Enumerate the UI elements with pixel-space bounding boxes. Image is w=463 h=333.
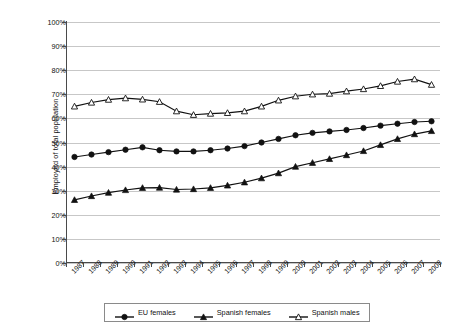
chart-legend: EU femalesSpanish femalesSpanish males	[104, 303, 370, 322]
series-eu-females	[72, 119, 434, 160]
data-point	[106, 149, 111, 154]
x-tick-mark	[304, 263, 305, 267]
x-tick-mark	[338, 263, 339, 267]
plot-area	[66, 22, 440, 263]
series-spanish-females	[71, 128, 434, 203]
x-tick-mark	[372, 263, 373, 267]
data-point	[327, 129, 332, 134]
legend-item: EU females	[114, 308, 176, 318]
x-tick-mark	[66, 263, 67, 267]
x-tick-mark	[100, 263, 101, 267]
data-point	[173, 108, 179, 114]
data-point	[395, 121, 400, 126]
x-tick-mark	[253, 263, 254, 267]
data-point	[174, 149, 179, 154]
x-tick-mark	[168, 263, 169, 267]
data-point	[276, 136, 281, 141]
x-tick-mark	[236, 263, 237, 267]
data-point	[293, 133, 298, 138]
x-tick-mark	[440, 263, 441, 267]
data-point	[191, 149, 196, 154]
data-point	[123, 147, 128, 152]
legend-label: EU females	[138, 308, 176, 317]
legend-marker-icon	[193, 308, 214, 318]
x-tick-mark	[355, 263, 356, 267]
x-tick-mark	[423, 263, 424, 267]
data-point	[428, 128, 434, 134]
legend-label: Spanish males	[312, 308, 360, 317]
legend-item: Spanish females	[193, 308, 271, 318]
x-tick-mark	[134, 263, 135, 267]
x-tick-mark	[117, 263, 118, 267]
x-axis-ticks: 1987198819891990199119921993199419951996…	[66, 263, 440, 333]
data-point	[225, 146, 230, 151]
data-point	[361, 125, 366, 130]
data-point	[429, 119, 434, 124]
data-point	[310, 130, 315, 135]
data-point	[344, 127, 349, 132]
x-tick-mark	[389, 263, 390, 267]
y-axis-ticks: 0%10%20%30%40%50%60%70%80%90%100%	[0, 22, 66, 263]
data-point	[208, 148, 213, 153]
x-tick-mark	[202, 263, 203, 267]
line-chart: Employed of total population 0%10%20%30%…	[0, 0, 463, 333]
legend-item: Spanish males	[288, 308, 360, 318]
data-point	[259, 140, 264, 145]
data-point	[157, 148, 162, 153]
x-tick-mark	[287, 263, 288, 267]
x-tick-mark	[151, 263, 152, 267]
data-point	[242, 143, 247, 148]
data-point	[378, 123, 383, 128]
data-point	[140, 145, 145, 150]
legend-label: Spanish females	[217, 308, 271, 317]
x-tick-mark	[185, 263, 186, 267]
data-point	[412, 119, 417, 124]
x-tick-mark	[406, 263, 407, 267]
x-tick-mark	[83, 263, 84, 267]
data-point	[89, 152, 94, 157]
data-point	[72, 154, 77, 159]
legend-marker-icon	[114, 308, 135, 318]
legend-marker-icon	[288, 308, 309, 318]
x-tick-mark	[321, 263, 322, 267]
x-tick-mark	[270, 263, 271, 267]
series-spanish-males	[71, 76, 434, 117]
series-container	[66, 22, 440, 263]
x-tick-mark	[219, 263, 220, 267]
